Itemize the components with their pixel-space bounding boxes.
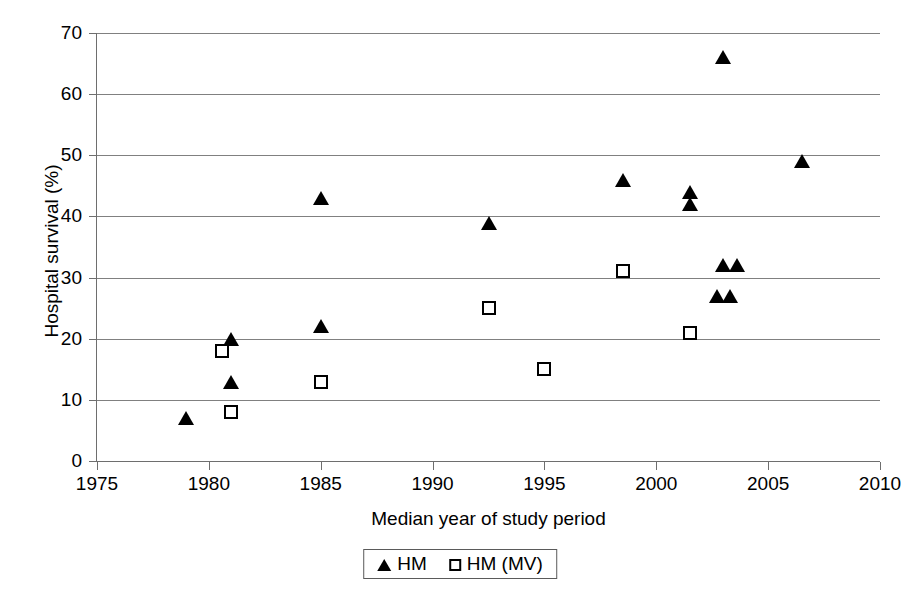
gridline-y-10 bbox=[97, 400, 880, 401]
data-point-hm bbox=[722, 289, 738, 303]
x-tick-1975 bbox=[97, 462, 98, 470]
gridline-y-0 bbox=[97, 461, 880, 462]
scatter-plot-figure: Hospital survival (%) 010203040506070 19… bbox=[0, 0, 920, 604]
gridline-y-60 bbox=[97, 94, 880, 95]
data-point-hm bbox=[794, 154, 810, 168]
x-tick-1980 bbox=[209, 462, 210, 470]
data-point-hm-mv bbox=[215, 344, 229, 358]
x-tick-label-1990: 1990 bbox=[393, 474, 473, 494]
y-tick-label-70: 70 bbox=[30, 23, 82, 42]
x-tick-label-2000: 2000 bbox=[616, 474, 696, 494]
x-tick-label-1985: 1985 bbox=[281, 474, 361, 494]
y-tick-label-10: 10 bbox=[30, 390, 82, 409]
data-point-hm bbox=[313, 319, 329, 333]
x-tick-label-1995: 1995 bbox=[504, 474, 584, 494]
chart-legend: HMHM (MV) bbox=[363, 549, 557, 579]
x-tick-2010 bbox=[880, 462, 881, 470]
x-tick-1995 bbox=[544, 462, 545, 470]
x-tick-label-2010: 2010 bbox=[840, 474, 920, 494]
gridline-y-30 bbox=[97, 278, 880, 279]
x-tick-1990 bbox=[433, 462, 434, 470]
data-point-hm-mv bbox=[224, 405, 238, 419]
plot-area bbox=[97, 33, 880, 461]
open-square-icon bbox=[449, 559, 461, 571]
data-point-hm bbox=[715, 50, 731, 64]
x-tick-label-1975: 1975 bbox=[57, 474, 137, 494]
data-point-hm-mv bbox=[537, 362, 551, 376]
data-point-hm bbox=[729, 258, 745, 272]
filled-triangle-icon bbox=[377, 559, 391, 571]
gridline-y-70 bbox=[97, 33, 880, 34]
data-point-hm-mv bbox=[482, 301, 496, 315]
legend-label: HM (MV) bbox=[467, 554, 543, 573]
data-point-hm bbox=[223, 375, 239, 389]
x-tick-label-2005: 2005 bbox=[728, 474, 808, 494]
y-tick-label-30: 30 bbox=[30, 268, 82, 287]
data-point-hm bbox=[313, 191, 329, 205]
data-point-hm-mv bbox=[683, 326, 697, 340]
data-point-hm bbox=[178, 411, 194, 425]
x-tick-1985 bbox=[321, 462, 322, 470]
y-tick-label-60: 60 bbox=[30, 84, 82, 103]
legend-label: HM bbox=[397, 554, 427, 573]
gridline-y-20 bbox=[97, 339, 880, 340]
y-tick-label-0: 0 bbox=[30, 451, 82, 470]
data-point-hm-mv bbox=[314, 375, 328, 389]
y-tick-label-50: 50 bbox=[30, 145, 82, 164]
data-point-hm bbox=[682, 197, 698, 211]
data-point-hm bbox=[615, 173, 631, 187]
gridline-y-50 bbox=[97, 155, 880, 156]
y-tick-label-20: 20 bbox=[30, 329, 82, 348]
data-point-hm-mv bbox=[616, 264, 630, 278]
x-tick-2005 bbox=[768, 462, 769, 470]
y-tick-label-40: 40 bbox=[30, 206, 82, 225]
legend-entry-hm: HM bbox=[377, 554, 427, 573]
x-tick-label-1980: 1980 bbox=[169, 474, 249, 494]
data-point-hm bbox=[481, 216, 497, 230]
x-tick-2000 bbox=[656, 462, 657, 470]
legend-entry-hm-mv: HM (MV) bbox=[449, 554, 543, 573]
x-axis-title: Median year of study period bbox=[97, 508, 880, 530]
